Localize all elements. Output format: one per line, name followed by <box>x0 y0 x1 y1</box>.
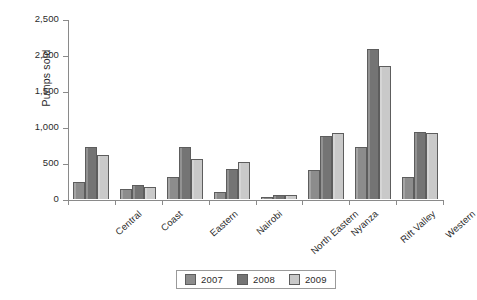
bar-group-bars <box>115 19 162 199</box>
bar-2009[interactable] <box>97 155 109 199</box>
y-tick-label: 2,000 <box>35 49 59 60</box>
bar-group-bars <box>396 19 443 199</box>
legend-item[interactable]: 2009 <box>289 274 327 285</box>
y-tick-label: 1,000 <box>35 121 59 132</box>
legend-label: 2007 <box>201 274 223 285</box>
bar-2009[interactable] <box>238 162 250 199</box>
bar-2007[interactable] <box>167 177 179 199</box>
bar-2007[interactable] <box>355 147 367 199</box>
x-category-label: Coast <box>159 208 185 233</box>
x-tick <box>349 200 350 205</box>
bar-group-bars <box>349 19 396 199</box>
legend-label: 2008 <box>253 274 275 285</box>
bar-group <box>115 19 162 199</box>
x-tick <box>302 200 303 205</box>
legend: 2007 2008 2009 <box>176 270 336 289</box>
bar-2007[interactable] <box>308 170 320 199</box>
plot-area: 05001,0001,5002,0002,500 CentralCoastEas… <box>68 20 443 200</box>
x-tick <box>256 200 257 205</box>
bar-group-bars <box>256 19 303 199</box>
bar-2009[interactable] <box>379 66 391 199</box>
legend-item[interactable]: 2007 <box>185 274 223 285</box>
bar-2008[interactable] <box>132 185 144 199</box>
bar-group <box>396 19 443 199</box>
y-tick-label: 1,500 <box>35 85 59 96</box>
bar-group-bars <box>162 19 209 199</box>
bar-2008[interactable] <box>367 49 379 199</box>
x-tick <box>396 200 397 205</box>
legend-label: 2009 <box>305 274 327 285</box>
x-category-label: Central <box>113 208 144 237</box>
bar-2009[interactable] <box>191 159 203 199</box>
bar-2008[interactable] <box>414 132 426 199</box>
bar-2008[interactable] <box>85 147 97 199</box>
bar-2007[interactable] <box>402 177 414 199</box>
x-tick <box>68 200 69 205</box>
legend-swatch-2009 <box>289 274 300 285</box>
y-tick-label: 2,500 <box>35 13 59 24</box>
x-category-label: Western <box>443 208 477 240</box>
bar-2008[interactable] <box>226 169 238 199</box>
bar-group <box>349 19 396 199</box>
x-tick <box>443 200 444 205</box>
bar-2009[interactable] <box>144 187 156 199</box>
x-tick <box>162 200 163 205</box>
bar-2009[interactable] <box>285 195 297 199</box>
bar-2007[interactable] <box>214 192 226 199</box>
bar-2008[interactable] <box>179 147 191 199</box>
bar-2008[interactable] <box>320 136 332 199</box>
x-category-label: Rift Valley <box>398 208 437 245</box>
x-tick <box>115 200 116 205</box>
bar-group-bars <box>68 19 115 199</box>
bar-2009[interactable] <box>426 133 438 199</box>
bar-group <box>256 19 303 199</box>
x-tick <box>209 200 210 205</box>
x-category-label: Eastern <box>208 208 240 239</box>
bar-group <box>68 19 115 199</box>
bar-2008[interactable] <box>273 195 285 199</box>
bar-2009[interactable] <box>332 133 344 199</box>
legend-item[interactable]: 2008 <box>237 274 275 285</box>
x-category-label: Nairobi <box>254 208 284 237</box>
legend-swatch-2007 <box>185 274 196 285</box>
bar-group-bars <box>302 19 349 199</box>
bar-2007[interactable] <box>120 189 132 199</box>
bar-2007[interactable] <box>73 182 85 199</box>
legend-swatch-2008 <box>237 274 248 285</box>
bar-2007[interactable] <box>261 197 273 199</box>
bar-group <box>302 19 349 199</box>
bar-group <box>162 19 209 199</box>
bar-group-bars <box>209 19 256 199</box>
bar-group <box>209 19 256 199</box>
y-tick-label: 0 <box>54 193 59 204</box>
y-tick-label: 500 <box>43 157 59 168</box>
